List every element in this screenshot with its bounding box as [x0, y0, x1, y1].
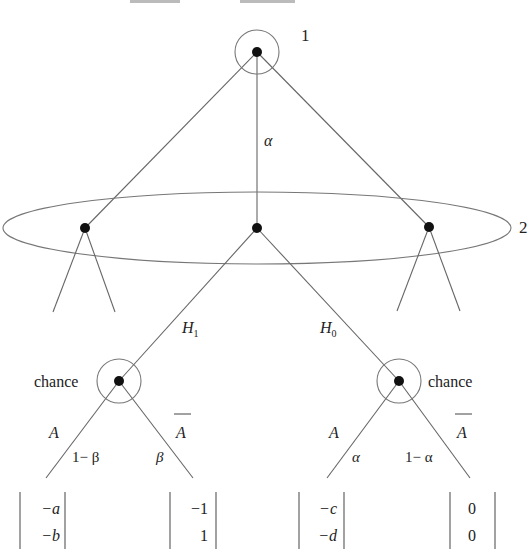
right-chance-prob-alpha: α: [352, 449, 361, 465]
payoff-3-top: −c: [319, 500, 337, 517]
payoff-4-top: 0: [468, 500, 476, 517]
payoff-vector-3: −c −d: [299, 492, 344, 549]
payoff-1-bottom: −b: [41, 527, 60, 544]
edge-root-right: [257, 52, 429, 227]
payoff-1-top: −a: [41, 500, 60, 517]
payoff-2-top: −1: [191, 500, 208, 517]
payoff-vector-4: 0 0: [450, 492, 495, 549]
right-chance-action-Abar: A: [456, 424, 467, 441]
edge-H0: [257, 228, 399, 381]
payoff-2-bottom: 1: [200, 527, 208, 544]
player-2-label: 2: [519, 218, 528, 237]
player-1-label: 1: [301, 26, 310, 45]
info-node-left: [80, 223, 90, 233]
left-chance-node: [114, 376, 124, 386]
title-fragment-left: [130, 0, 180, 3]
edge-right-stub-1: [397, 227, 429, 311]
H1-label: H1: [181, 319, 199, 339]
right-chance-node: [394, 376, 404, 386]
right-chance-action-A: A: [328, 424, 339, 441]
payoff-vector-1: −a −b: [20, 492, 65, 549]
edge-left-stub-2: [85, 228, 115, 312]
info-node-right: [424, 222, 434, 232]
root-node: [252, 47, 262, 57]
left-chance-prob-1-beta: 1− β: [72, 449, 99, 465]
left-chance-action-A: A: [48, 424, 59, 441]
edge-H1: [119, 228, 257, 381]
left-chance-prob-beta: β: [155, 449, 164, 465]
left-chance-action-Abar: A: [175, 424, 186, 441]
game-tree-diagram: 1 2 chance chance α H1 H0 A A 1− β β A A…: [0, 0, 529, 558]
info-node-middle: [252, 223, 262, 233]
title-fragment-right: [240, 0, 295, 3]
payoff-vector-2: −1 1: [170, 492, 216, 549]
payoff-4-bottom: 0: [468, 527, 476, 544]
chance-label-right: chance: [428, 373, 472, 390]
edge-root-left: [85, 52, 257, 228]
alpha-label-root: α: [264, 132, 273, 149]
chance-label-left: chance: [34, 373, 78, 390]
payoff-3-bottom: −d: [318, 527, 338, 544]
H0-label: H0: [319, 319, 337, 339]
right-chance-prob-1-alpha: 1− α: [405, 449, 433, 465]
edge-right-stub-2: [429, 227, 460, 311]
edge-left-stub-1: [53, 228, 85, 312]
